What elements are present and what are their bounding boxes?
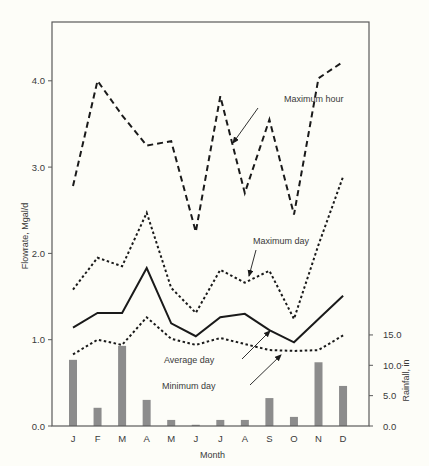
y-tick-label: 1.0 bbox=[32, 334, 45, 345]
y2-tick-label: 10.0 bbox=[383, 360, 402, 371]
x-tick-label: J bbox=[71, 433, 76, 444]
rainfall-bar bbox=[118, 346, 126, 426]
y2-tick-label: 15.0 bbox=[383, 329, 402, 340]
x-tick-label: O bbox=[290, 433, 297, 444]
annotation-arrow bbox=[249, 250, 256, 276]
y2-tick-label: 0.0 bbox=[383, 421, 396, 432]
x-tick-label: D bbox=[340, 433, 347, 444]
rainfall-bar bbox=[265, 398, 273, 426]
y-tick-label: 0.0 bbox=[32, 421, 45, 432]
x-tick-label: N bbox=[315, 433, 322, 444]
y-tick-label: 3.0 bbox=[32, 162, 45, 173]
x-tick-label: M bbox=[167, 433, 175, 444]
annotation-label: Maximum day bbox=[253, 236, 310, 246]
annotation-label: Maximum hour bbox=[284, 94, 344, 104]
y2-axis-title: Rainfall, in bbox=[401, 359, 411, 401]
flowrate-lines bbox=[73, 62, 343, 355]
rainfall-bar bbox=[315, 362, 323, 426]
rainfall-bar bbox=[290, 417, 298, 426]
rainfall-bar bbox=[167, 420, 175, 426]
rainfall-bar bbox=[339, 386, 347, 426]
annotation-label: Minimum day bbox=[162, 381, 216, 391]
y-tick-label: 2.0 bbox=[32, 248, 45, 259]
rainfall-bar bbox=[69, 360, 77, 426]
y2-tick-label: 5.0 bbox=[383, 390, 396, 401]
x-tick-label: S bbox=[266, 433, 272, 444]
x-tick-label: J bbox=[218, 433, 223, 444]
chart-canvas: 0.01.02.03.04.00.05.010.015.0JFMAMJJASON… bbox=[0, 0, 429, 466]
rainfall-bar bbox=[241, 420, 249, 426]
rainfall-bar bbox=[94, 408, 102, 426]
maximum-day-line bbox=[73, 177, 343, 319]
y-axis-title: Flowrate, Mgal/d bbox=[20, 203, 30, 270]
annotation-label: Average day bbox=[164, 355, 215, 365]
x-tick-label: A bbox=[242, 433, 249, 444]
x-tick-label: M bbox=[118, 433, 126, 444]
y-tick-label: 4.0 bbox=[32, 75, 45, 86]
rainfall-bar bbox=[143, 400, 151, 426]
flowrate-rainfall-chart: 0.01.02.03.04.00.05.010.015.0JFMAMJJASON… bbox=[0, 0, 429, 466]
annotation-arrow bbox=[233, 108, 258, 143]
annotations: Maximum hourMaximum dayAverage dayMinimu… bbox=[162, 94, 344, 391]
x-axis-title: Month bbox=[200, 450, 225, 460]
rainfall-bar bbox=[216, 420, 224, 426]
x-tick-label: J bbox=[193, 433, 198, 444]
minimum-day-line bbox=[73, 317, 343, 354]
average-day-line bbox=[73, 268, 343, 342]
maximum-hour-line bbox=[73, 62, 343, 232]
axes: 0.01.02.03.04.00.05.010.015.0JFMAMJJASON… bbox=[20, 75, 411, 460]
annotation-arrow bbox=[250, 355, 281, 385]
x-tick-label: F bbox=[95, 433, 101, 444]
x-tick-label: A bbox=[143, 433, 150, 444]
